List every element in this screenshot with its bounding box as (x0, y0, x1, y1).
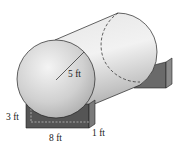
support-height-label: 3 ft (6, 112, 19, 122)
support-depth-label: 1 ft (92, 128, 105, 138)
front-end-cap (17, 40, 95, 118)
tank-diagram: 5 ft 3 ft 8 ft 1 ft (0, 0, 183, 148)
support-width-label: 8 ft (49, 133, 62, 143)
radius-label: 5 ft (68, 69, 81, 79)
